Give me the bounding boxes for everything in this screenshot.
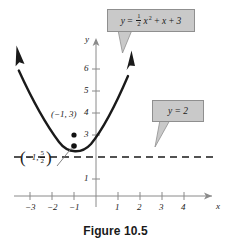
vertex-fraction-numerator: 5 xyxy=(40,150,46,157)
y-tick-label-4: 4 xyxy=(84,108,89,117)
vertex-fraction-denominator: 2 xyxy=(40,157,46,165)
x-axis-label: x xyxy=(216,202,220,211)
figure-10-5: y = 1 2 x2 + x + 3 y = 2 (−1, 3) ( −1, 5… xyxy=(0,0,231,246)
equation-equals: = xyxy=(127,16,132,26)
figure-caption: Figure 10.5 xyxy=(0,224,231,238)
fraction-denominator: 2 xyxy=(136,20,141,28)
equation-fraction: 1 2 xyxy=(136,13,141,28)
equation-exponent: 2 xyxy=(149,15,152,21)
equation-callout: y = 1 2 x2 + x + 3 xyxy=(107,9,195,32)
vertex-x-part: −1, xyxy=(26,153,39,162)
equation-lhs: y xyxy=(121,16,125,26)
y-tick-label-6: 6 xyxy=(84,64,89,73)
y-tick-label-3: 3 xyxy=(84,130,89,139)
equation-plus-1: + xyxy=(154,16,159,26)
equation-text: y = 1 2 x2 + x + 3 xyxy=(121,13,182,28)
vertex-close-paren: ) xyxy=(46,152,52,164)
y-tick-label-1: 1 xyxy=(84,174,89,183)
point-marker-neg1-3 xyxy=(71,132,76,137)
x-tick-label-4: 4 xyxy=(181,203,186,212)
y-axis-label: y xyxy=(85,35,89,44)
y2-callout-tail xyxy=(155,120,170,147)
x-axis xyxy=(14,192,212,200)
fraction-numerator: 1 xyxy=(136,13,141,20)
equation-constant: 3 xyxy=(177,16,182,26)
equation-var-2: x xyxy=(162,16,166,26)
vertex-leader-line xyxy=(57,148,72,166)
curve-arrow-left xyxy=(16,46,25,67)
vertex-label-neg1-five-halves: ( −1, 5 2 ) xyxy=(20,150,52,166)
vertex-fraction: 5 2 xyxy=(40,150,46,166)
point-marker-vertex xyxy=(71,143,77,149)
equation-var-1: x xyxy=(143,16,147,26)
x-tick-label-1: 1 xyxy=(115,203,120,212)
y-tick-label-5: 5 xyxy=(84,86,89,95)
x-tick-label-neg1: −1 xyxy=(69,203,80,212)
point-label-neg1-3: (−1, 3) xyxy=(51,110,77,119)
y-axis xyxy=(92,38,100,207)
x-tick-label-2: 2 xyxy=(137,203,142,212)
equation-plus-2: + xyxy=(169,16,174,26)
equation-callout-tail xyxy=(118,30,132,53)
x-tick-label-3: 3 xyxy=(159,203,164,212)
curve-arrow-right xyxy=(127,51,135,71)
x-tick-label-neg2: −2 xyxy=(47,203,58,212)
y-equals-2-text: y = 2 xyxy=(168,106,188,116)
y-equals-2-callout: y = 2 xyxy=(152,100,204,122)
x-tick-label-neg3: −3 xyxy=(25,203,36,212)
